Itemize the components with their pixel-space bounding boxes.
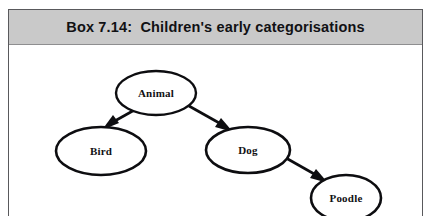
node-dog-label: Dog xyxy=(238,144,258,156)
node-dog[interactable]: Dog xyxy=(206,127,290,173)
node-poodle[interactable]: Poodle xyxy=(311,175,381,216)
figure-page: Box 7.14: Children's early categorisatio… xyxy=(0,0,434,216)
node-bird-label: Bird xyxy=(90,145,112,157)
node-poodle-label: Poodle xyxy=(330,192,363,204)
node-animal[interactable]: Animal xyxy=(116,71,196,115)
page-title: Box 7.14: Children's early categorisatio… xyxy=(66,19,364,35)
diagram-canvas: Animal Bird Dog Poodle xyxy=(9,45,422,216)
edge-dog-to-poodle xyxy=(286,158,328,183)
edge-animal-to-dog xyxy=(189,106,233,132)
node-animal-label: Animal xyxy=(138,87,174,99)
node-bird[interactable]: Bird xyxy=(56,127,146,175)
categorisation-diagram: Animal Bird Dog Poodle xyxy=(9,45,422,216)
box-title-band: Box 7.14: Children's early categorisatio… xyxy=(9,10,422,45)
box-frame: Box 7.14: Children's early categorisatio… xyxy=(8,9,423,216)
